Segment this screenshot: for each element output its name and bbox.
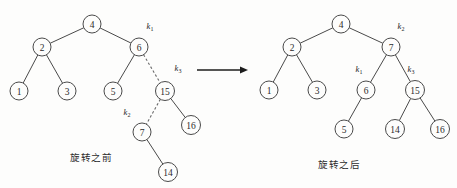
node-value-label: 14: [390, 125, 400, 135]
tree-after: 4271361551416k2k1k3: [260, 15, 450, 139]
node-value-label: 15: [410, 86, 420, 96]
key-label-k3: k3: [407, 64, 414, 75]
node-value-label: 16: [435, 125, 445, 135]
node-value-label: 5: [342, 125, 347, 135]
edge-b2-b3: [46, 55, 62, 83]
key-label-k2: k2: [397, 21, 404, 32]
figure-canvas: 4261351571614k1k3k24271361551416k2k1k3: [0, 0, 457, 188]
tree-node-7: 7: [133, 123, 151, 141]
node-value-label: 4: [90, 20, 95, 30]
edge-b7-b14: [147, 140, 163, 164]
tree-node-6: 6: [130, 38, 148, 56]
node-value-label: 6: [137, 43, 142, 53]
node-value-label: 3: [315, 86, 320, 96]
node-value-label: 14: [163, 168, 173, 178]
tree-node-2: 2: [33, 38, 51, 56]
node-value-label: 5: [111, 87, 116, 97]
caption-after-rotation: 旋转之后: [318, 157, 360, 171]
key-label-k1: k1: [355, 64, 362, 75]
edge-b2-b1: [23, 55, 38, 83]
edge-a4-a2: [300, 28, 333, 43]
key-label-k3: k3: [174, 63, 181, 74]
edge-b6-b5: [118, 55, 135, 84]
edge-b15-b16: [171, 99, 185, 118]
key-label-k1: k1: [146, 21, 153, 32]
caption-before-rotation: 旋转之前: [70, 150, 112, 164]
node-value-label: 7: [140, 128, 145, 138]
tree-node-1: 1: [260, 81, 278, 99]
tree-node-15: 15: [406, 81, 425, 100]
edge-a6-a5: [348, 98, 361, 121]
tree-node-4: 4: [83, 15, 101, 33]
edge-a4-a7: [349, 28, 383, 43]
edge-a2-a3: [297, 55, 313, 82]
tree-node-15: 15: [156, 82, 175, 101]
node-value-label: 2: [290, 43, 295, 53]
edge-b4-b2: [50, 28, 84, 43]
edge-a7-a6: [371, 55, 387, 82]
tree-node-14: 14: [386, 120, 405, 139]
tree-node-5: 5: [335, 120, 353, 138]
edge-a15-a16: [420, 98, 435, 121]
arrow-head: [240, 66, 248, 73]
node-value-label: 2: [40, 43, 45, 53]
node-value-label: 3: [65, 87, 70, 97]
node-value-label: 4: [339, 20, 344, 30]
node-value-label: 16: [186, 121, 196, 131]
node-value-label: 7: [389, 43, 394, 53]
tree-node-1: 1: [10, 82, 28, 100]
edge-a2-a1: [273, 55, 288, 82]
node-value-label: 6: [364, 86, 369, 96]
tree-node-16: 16: [431, 120, 450, 139]
tree-node-14: 14: [159, 163, 178, 182]
edge-b4-b6: [100, 28, 131, 43]
tree-node-2: 2: [283, 38, 301, 56]
edge-b15-b7: [146, 99, 160, 124]
tree-node-6: 6: [357, 81, 375, 99]
tree-node-4: 4: [332, 15, 350, 33]
rotation-figure: 4261351571614k1k3k24271361551416k2k1k3 旋…: [0, 0, 457, 188]
edge-b6-b15: [144, 55, 161, 83]
node-value-label: 1: [267, 86, 272, 96]
tree-node-7: 7: [382, 38, 400, 56]
edge-a15-a14: [399, 98, 410, 120]
key-label-k2: k2: [123, 107, 130, 118]
node-value-label: 15: [160, 87, 170, 97]
tree-node-3: 3: [308, 81, 326, 99]
tree-node-5: 5: [104, 82, 122, 100]
node-value-label: 1: [17, 87, 22, 97]
transformation-arrow: [197, 66, 248, 73]
tree-node-3: 3: [58, 82, 76, 100]
tree-node-16: 16: [182, 116, 201, 135]
